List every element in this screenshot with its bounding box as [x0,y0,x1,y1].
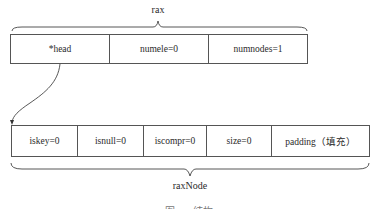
raxnode-field-isnull: isnull=0 [78,126,144,156]
rax-brace [12,21,307,31]
diagram-lines [0,0,378,209]
rax-field-numele: numele=0 [110,35,209,63]
rax-label: rax [138,4,178,15]
head-pointer-arrow [12,64,60,122]
rax-struct: *head numele=0 numnodes=1 [10,34,308,64]
rax-field-numnodes: numnodes=1 [209,35,307,63]
raxnode-field-iscompr: iscompr=0 [144,126,207,156]
raxnode-field-iskey: iskey=0 [12,126,78,156]
rax-field-head: *head [11,35,110,63]
raxnode-field-padding: padding（填充） [272,126,369,156]
figure-caption: 图 rax 结构 [0,203,378,209]
raxnode-label: raxNode [160,180,220,191]
raxnode-field-size: size=0 [207,126,272,156]
raxnode-struct: iskey=0 isnull=0 iscompr=0 size=0 paddin… [11,125,370,157]
raxnode-brace [11,163,369,176]
